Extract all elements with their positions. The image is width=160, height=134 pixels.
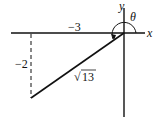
hypotenuse-label: 13: [82, 70, 94, 84]
hypotenuse: [31, 33, 124, 98]
hypotenuse-radical-sign: √: [74, 70, 81, 84]
y-axis-label: y: [118, 0, 125, 13]
vertical-leg-label: −2: [15, 57, 28, 71]
angle-label: θ: [130, 10, 136, 24]
horizontal-leg-label: −3: [68, 20, 81, 34]
diagram: y x θ −3 −2 √ 13: [0, 0, 160, 134]
x-axis-label: x: [146, 26, 153, 40]
